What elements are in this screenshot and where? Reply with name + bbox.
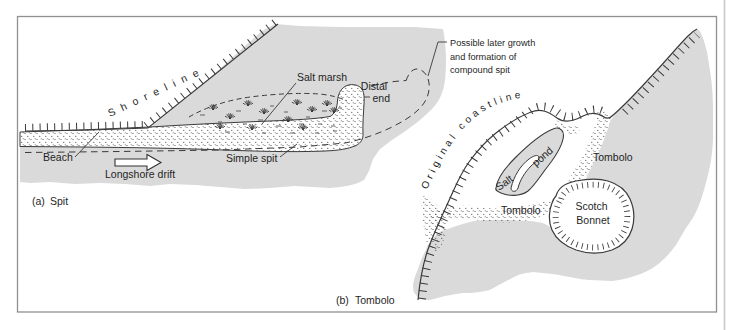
salt-marsh-label: Salt marsh xyxy=(297,71,347,83)
panel-a-spit: Shoreline Salt marsh Distal end Beach Si… xyxy=(20,21,538,207)
panel-b-caption: (b) Tombolo xyxy=(336,294,395,306)
beach-label: Beach xyxy=(43,151,73,163)
panel-a-caption: (a) Spit xyxy=(32,195,68,207)
longshore-drift-label: Longshore drift xyxy=(105,168,175,180)
coastal-landforms-diagram: Shoreline Salt marsh Distal end Beach Si… xyxy=(0,0,734,330)
compound-spit-note: Possible later growth and formation of c… xyxy=(450,38,538,75)
cliff-ticks-a-horizontal xyxy=(25,124,148,127)
sea-area-a xyxy=(20,24,446,189)
figure-page: Shoreline Salt marsh Distal end Beach Si… xyxy=(0,0,734,330)
tombolo-label-bottom: Tombolo xyxy=(501,204,541,216)
simple-spit-label: Simple spit xyxy=(226,152,277,164)
coast-beach-stipple xyxy=(421,196,446,251)
tombolo-label-right: Tombolo xyxy=(593,151,633,163)
